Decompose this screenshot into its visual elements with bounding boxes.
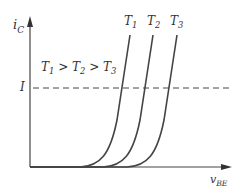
y-axis-label: iC [13,18,24,35]
current-level-label: I [20,81,25,93]
curve-label-t1-sub: 1 [132,20,137,30]
x-axis-arrow-icon [221,164,232,170]
curve-label-t3: T3 [170,15,183,30]
curve-label-t3-sub: 3 [178,20,183,30]
relation-gt1: > [54,60,72,74]
curve-label-t2-main: T [147,14,155,28]
y-axis-arrow-icon [27,16,33,27]
curve-label-t3-main: T [170,14,178,28]
curve-label-t1-main: T [124,14,132,28]
relation-t3: T [103,60,111,74]
relation-label: T1 > T2 > T3 [41,61,116,76]
curve-label-t2: T2 [147,15,160,30]
curve-t3 [30,35,177,167]
y-axis-label-sub: C [17,25,24,35]
relation-t2: T [72,60,80,74]
curve-label-t1: T1 [124,15,137,30]
relation-t1: T [41,60,49,74]
curve-t2 [30,35,153,167]
x-axis-label: vBE [210,174,227,188]
curve-t1 [30,35,130,167]
relation-gt2: > [85,60,103,74]
relation-s3: 3 [111,66,116,76]
diagram-canvas [0,0,239,193]
x-axis-label-sub: BE [216,179,227,188]
curve-label-t2-sub: 2 [155,20,160,30]
